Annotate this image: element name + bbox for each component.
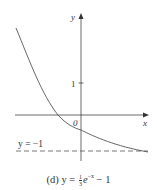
function-curve (16, 28, 148, 152)
figure-caption: (d) y = 13e−x − 1 (0, 173, 157, 187)
caption-fraction: 13 (79, 174, 82, 187)
fraction-denominator: 3 (79, 181, 82, 187)
caption-suffix: − 1 (94, 174, 110, 185)
y-axis-arrow-icon (79, 13, 84, 19)
x-axis-label: x (142, 118, 147, 128)
origin-label: 0 (73, 118, 78, 128)
y-axis-label: y (70, 12, 75, 22)
y-tick-label: 1 (71, 79, 76, 89)
fraction-numerator: 1 (79, 174, 82, 181)
caption-prefix: (d) y = (47, 174, 78, 185)
x-axis-arrow-icon (143, 113, 149, 118)
asymptote-label: y = −1 (18, 139, 43, 149)
graph: y x 1 0 y = −1 (0, 0, 157, 170)
